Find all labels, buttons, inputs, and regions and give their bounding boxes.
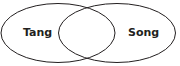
song-label: Song — [128, 27, 159, 39]
tang-label: Tang — [23, 27, 52, 39]
